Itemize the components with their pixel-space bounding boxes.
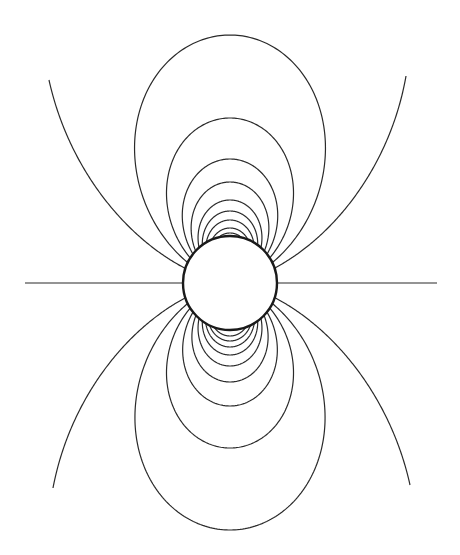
central-sphere (183, 236, 277, 330)
field-line-open-upper-left (49, 80, 185, 268)
field-line-open-lower-right (275, 298, 410, 485)
dipole-field-diagram (0, 0, 460, 555)
field-loop-bottom-1 (135, 304, 325, 531)
